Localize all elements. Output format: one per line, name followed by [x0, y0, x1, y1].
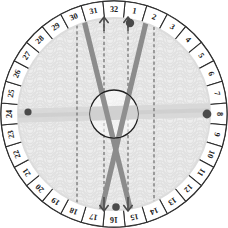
rim-label-23: 23	[6, 130, 16, 140]
rim-label-24: 24	[5, 110, 14, 118]
dial-diagram-container: 1234567891011121314151617181920212223242…	[0, 0, 228, 228]
marker-right[interactable]	[203, 110, 212, 119]
rim-label-31: 31	[89, 6, 99, 16]
marker-bottom[interactable]	[112, 203, 120, 211]
rim-label-15: 15	[130, 212, 140, 222]
rim-label-32: 32	[110, 5, 118, 14]
rim-label-8: 8	[215, 112, 224, 116]
marker-left[interactable]	[24, 108, 31, 115]
rim-label-16: 16	[110, 215, 118, 224]
rim-label-25: 25	[6, 89, 16, 99]
dial-svg: 1234567891011121314151617181920212223242…	[0, 0, 228, 228]
marker-top[interactable]	[126, 19, 134, 27]
rim-label-17: 17	[89, 212, 99, 222]
